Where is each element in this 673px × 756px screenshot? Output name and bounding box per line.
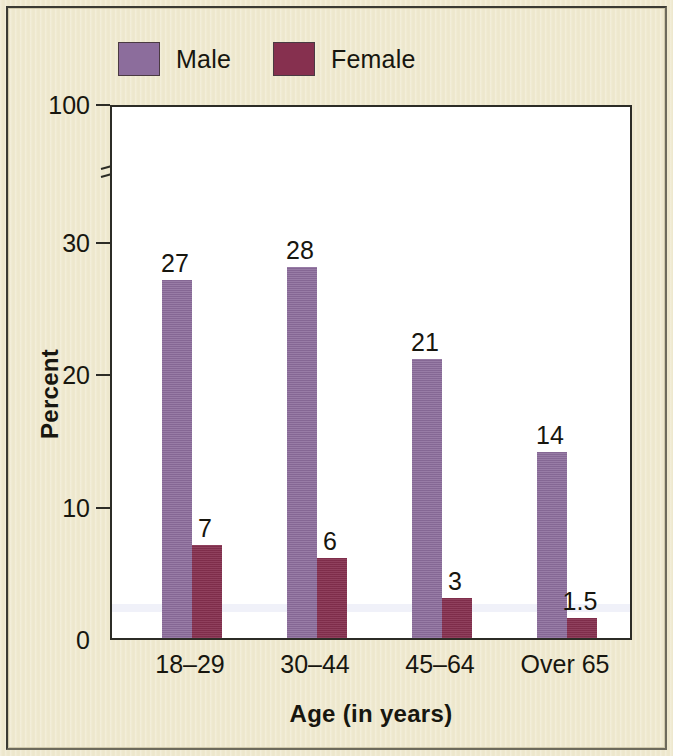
y-tick-mark-10 xyxy=(96,507,110,509)
chart-figure: Male Female 100 30 20 10 0 Percent 27 xyxy=(0,0,673,756)
legend-swatch-male-icon xyxy=(118,42,160,76)
x-axis-title: Age (in years) xyxy=(110,700,632,728)
bar-value-female-18-29: 7 xyxy=(165,514,245,543)
bar-female-over-65[interactable] xyxy=(567,618,597,638)
bar-value-male-over-65: 14 xyxy=(510,421,590,450)
bar-value-male-45-64: 21 xyxy=(385,328,465,357)
bar-value-male-30-44: 28 xyxy=(260,236,340,265)
y-tick-mark-100 xyxy=(96,104,110,106)
x-tick-label-18-29: 18–29 xyxy=(120,650,260,679)
bar-male-45-64[interactable] xyxy=(412,359,442,638)
legend-item-female: Female xyxy=(273,42,416,76)
bar-value-female-45-64: 3 xyxy=(415,567,495,596)
x-tick-label-over-65: Over 65 xyxy=(495,650,635,679)
y-axis-title: Percent xyxy=(36,334,64,454)
y-tick-mark-30 xyxy=(96,242,110,244)
bar-female-45-64[interactable] xyxy=(442,598,472,638)
chart-legend: Male Female xyxy=(118,42,416,76)
bar-value-male-18-29: 27 xyxy=(135,249,215,278)
y-tick-label-10: 10 xyxy=(20,494,90,523)
y-tick-label-0: 0 xyxy=(20,626,90,655)
bar-value-female-over-65: 1.5 xyxy=(540,587,620,616)
legend-swatch-female-icon xyxy=(273,42,315,76)
x-tick-label-45-64: 45–64 xyxy=(370,650,510,679)
bar-female-30-44[interactable] xyxy=(317,558,347,638)
plot-area xyxy=(110,105,632,640)
bar-male-18-29[interactable] xyxy=(162,280,192,638)
x-tick-label-30-44: 30–44 xyxy=(245,650,385,679)
y-tick-label-30: 30 xyxy=(20,229,90,258)
y-tick-label-100: 100 xyxy=(20,91,90,120)
y-tick-mark-20 xyxy=(96,374,110,376)
legend-label-female: Female xyxy=(331,45,416,74)
legend-label-male: Male xyxy=(176,45,231,74)
bar-value-female-30-44: 6 xyxy=(290,527,370,556)
bar-female-18-29[interactable] xyxy=(192,545,222,638)
legend-item-male: Male xyxy=(118,42,231,76)
bar-male-30-44[interactable] xyxy=(287,267,317,638)
